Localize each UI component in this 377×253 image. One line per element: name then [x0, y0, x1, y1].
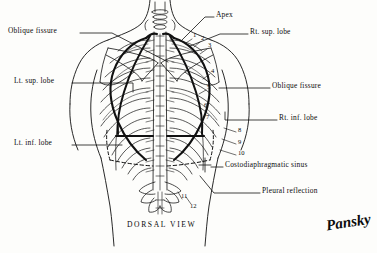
rib-number-2: 2	[201, 35, 204, 42]
figure-caption: DORSAL VIEW	[127, 220, 196, 229]
rib-number-10: 10	[238, 150, 245, 157]
label-pleural-reflection: Pleural reflection	[262, 187, 318, 194]
label-rt-inf-lobe: Rt. inf. lobe	[279, 114, 318, 121]
label-oblique-fissure-right: Oblique fissure	[272, 82, 321, 89]
anatomical-figure: Oblique fissure Lt. sup. lobe Lt. inf. l…	[0, 0, 377, 253]
rib-number-3: 3	[208, 42, 211, 49]
rib-number-7: 7	[206, 114, 209, 121]
label-lt-inf-lobe: Lt. inf. lobe	[14, 139, 52, 146]
label-lt-sup-lobe: Lt. sup. lobe	[14, 77, 54, 84]
vertebral-column	[146, 32, 174, 190]
label-oblique-fissure-left: Oblique fissure	[8, 27, 57, 34]
body-outline	[70, 0, 249, 246]
rib-number-8: 8	[238, 127, 241, 134]
rib-number-4: 4	[211, 68, 214, 75]
rib-number-5: 5	[207, 84, 210, 91]
rib-number-6: 6	[204, 102, 207, 109]
rib-number-12: 12	[190, 203, 197, 210]
thorax-dorsal-illustration	[0, 0, 377, 253]
label-apex: Apex	[216, 11, 233, 18]
rib-number-11: 11	[181, 193, 187, 200]
label-rt-sup-lobe: Rt. sup. lobe	[250, 28, 291, 35]
rib-number-9: 9	[238, 139, 241, 146]
rib-number-1: 1	[193, 32, 196, 39]
label-costodiaphragmatic-sinus: Costodiaphragmatic sinus	[225, 161, 308, 168]
